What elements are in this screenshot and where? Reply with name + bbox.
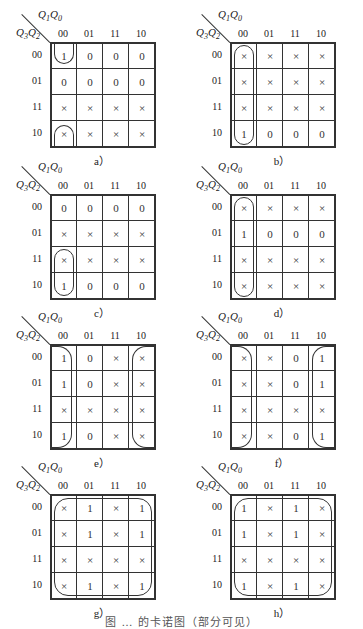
kmap-cell: × bbox=[103, 345, 129, 371]
kmap-cell: × bbox=[103, 221, 129, 247]
kmap-cell: × bbox=[103, 95, 129, 121]
axis-label-q3q2: Q3Q2 bbox=[196, 478, 220, 493]
row-header: 00 bbox=[22, 501, 42, 512]
row-header: 11 bbox=[22, 553, 42, 564]
row-header: 00 bbox=[202, 501, 222, 512]
kmap-cell: 0 bbox=[77, 273, 103, 299]
kmap-cell: × bbox=[257, 521, 283, 547]
kmap-cell: 0 bbox=[51, 69, 77, 95]
axis-label-q1q0: Q1Q0 bbox=[38, 8, 62, 23]
column-header: 01 bbox=[256, 180, 282, 191]
kmap-cell: × bbox=[257, 247, 283, 273]
kmap-cell: × bbox=[231, 43, 257, 69]
row-header: 11 bbox=[22, 403, 42, 414]
column-header: 00 bbox=[230, 28, 256, 39]
row-header: 01 bbox=[22, 527, 42, 538]
axis-label-q3q2: Q3Q2 bbox=[16, 478, 40, 493]
kmap-cell: × bbox=[231, 371, 257, 397]
kmap-cell: × bbox=[77, 95, 103, 121]
column-header: 01 bbox=[256, 330, 282, 341]
kmap-cell: 0 bbox=[129, 69, 155, 95]
column-header: 10 bbox=[308, 480, 334, 491]
column-header: 00 bbox=[50, 480, 76, 491]
kmap-cell: 0 bbox=[77, 345, 103, 371]
kmap-cell: × bbox=[283, 247, 309, 273]
axis-label-q1q0: Q1Q0 bbox=[38, 310, 62, 325]
kmap-cell: 1 bbox=[309, 371, 335, 397]
row-header: 00 bbox=[202, 49, 222, 60]
kmap-cell: 1 bbox=[231, 121, 257, 147]
kmap-cell: × bbox=[231, 423, 257, 449]
kmap-cell: × bbox=[129, 371, 155, 397]
kmap-cell: 0 bbox=[283, 221, 309, 247]
row-header: 10 bbox=[202, 579, 222, 590]
kmap-cell: 1 bbox=[129, 573, 155, 599]
column-header: 10 bbox=[308, 28, 334, 39]
kmap-cell: 0 bbox=[103, 195, 129, 221]
row-header: 01 bbox=[22, 227, 42, 238]
kmap-d: Q1Q0Q3Q20001111000011110××××1000××××××××… bbox=[180, 152, 360, 302]
kmap-cell: × bbox=[309, 95, 335, 121]
column-header: 11 bbox=[282, 330, 308, 341]
kmap-cell: × bbox=[103, 573, 129, 599]
axis-label-q3q2: Q3Q2 bbox=[196, 26, 220, 41]
column-header: 01 bbox=[76, 28, 102, 39]
kmap-cell: 1 bbox=[231, 221, 257, 247]
kmap-cell: × bbox=[283, 547, 309, 573]
column-header: 01 bbox=[76, 480, 102, 491]
row-header: 11 bbox=[22, 253, 42, 264]
kmap-cell: × bbox=[77, 247, 103, 273]
kmap-cell: 0 bbox=[129, 43, 155, 69]
kmap-cell: × bbox=[257, 273, 283, 299]
kmap-cell: × bbox=[231, 397, 257, 423]
kmap-cell: × bbox=[51, 521, 77, 547]
axis-label-q3q2: Q3Q2 bbox=[196, 328, 220, 343]
row-header: 01 bbox=[202, 75, 222, 86]
kmap-cell: 0 bbox=[129, 273, 155, 299]
column-header: 10 bbox=[308, 180, 334, 191]
kmap-cell: × bbox=[51, 221, 77, 247]
column-header: 10 bbox=[128, 180, 154, 191]
column-header: 11 bbox=[102, 28, 128, 39]
kmap-cell: 0 bbox=[77, 371, 103, 397]
kmap-cell: × bbox=[129, 547, 155, 573]
kmap-cell: × bbox=[129, 95, 155, 121]
kmap-cell: × bbox=[77, 221, 103, 247]
kmap-cell: × bbox=[231, 95, 257, 121]
column-header: 01 bbox=[256, 480, 282, 491]
kmap-cell: × bbox=[231, 273, 257, 299]
kmap-cell: 0 bbox=[309, 121, 335, 147]
kmap-cell: × bbox=[51, 247, 77, 273]
row-header: 10 bbox=[22, 429, 42, 440]
kmap-cell: 0 bbox=[77, 195, 103, 221]
axis-label-q3q2: Q3Q2 bbox=[16, 328, 40, 343]
row-header: 11 bbox=[202, 403, 222, 414]
kmap-cell: × bbox=[309, 547, 335, 573]
kmap-cell: × bbox=[309, 495, 335, 521]
kmap-cell: × bbox=[103, 423, 129, 449]
kmap-cell: × bbox=[51, 397, 77, 423]
kmap-cell: 1 bbox=[283, 495, 309, 521]
kmap-cell: × bbox=[129, 221, 155, 247]
column-header: 11 bbox=[282, 180, 308, 191]
row-header: 10 bbox=[22, 279, 42, 290]
kmap-cell: × bbox=[309, 69, 335, 95]
kmap-cell: × bbox=[309, 573, 335, 599]
row-header: 00 bbox=[22, 49, 42, 60]
kmap-c: Q1Q0Q3Q200011110000111100000××××××××1000… bbox=[0, 152, 180, 302]
kmap-cell: × bbox=[309, 273, 335, 299]
kmap-cell: × bbox=[231, 69, 257, 95]
kmap-cell: 0 bbox=[103, 43, 129, 69]
kmap-cell: × bbox=[103, 397, 129, 423]
kmap-cell: × bbox=[51, 547, 77, 573]
row-header: 01 bbox=[202, 527, 222, 538]
row-header: 11 bbox=[202, 253, 222, 264]
kmap-cell: × bbox=[309, 43, 335, 69]
column-header: 11 bbox=[282, 480, 308, 491]
kmap-cell: × bbox=[103, 495, 129, 521]
kmap-b: Q1Q0Q3Q20001111000011110××××××××××××1000… bbox=[180, 0, 360, 150]
kmap-cell: 0 bbox=[77, 69, 103, 95]
kmap-cell: 1 bbox=[283, 521, 309, 547]
kmap-cell: 1 bbox=[309, 423, 335, 449]
kmap-cell: × bbox=[103, 121, 129, 147]
